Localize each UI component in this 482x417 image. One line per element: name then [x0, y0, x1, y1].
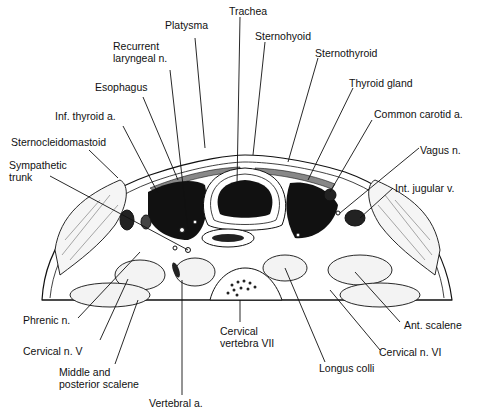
label-sternothyroid: Sternothyroid [315, 47, 377, 59]
label-vagus: Vagus n. [420, 144, 461, 156]
label-cervical-v: Cervical n. V [23, 345, 83, 357]
label-sternocleidomastoid: Sternocleidomastoid [11, 136, 106, 148]
label-cervical-vertebra: Cervical vertebra VII [220, 325, 274, 349]
label-recurrent-laryngeal: Recurrent laryngeal n. [113, 40, 167, 64]
label-cervical-vi: Cervical n. VI [379, 346, 441, 358]
label-middle-posterior-scalene: Middle and posterior scalene [59, 366, 139, 390]
label-phrenic: Phrenic n. [23, 314, 70, 326]
label-sympathetic-trunk: Sympathetic trunk [9, 159, 67, 183]
label-ant-scalene: Ant. scalene [404, 319, 462, 331]
label-platysma: Platysma [165, 19, 208, 31]
label-sternohyoid: Sternohyoid [255, 30, 311, 42]
label-int-jugular: Int. jugular v. [395, 182, 454, 194]
label-vertebral-artery: Vertebral a. [149, 397, 203, 409]
label-longus-colli: Longus colli [319, 362, 374, 374]
label-trachea: Trachea [229, 5, 267, 17]
label-esophagus: Esophagus [95, 81, 148, 93]
label-common-carotid: Common carotid a. [374, 108, 463, 120]
label-inf-thyroid: Inf. thyroid a. [55, 110, 116, 122]
label-thyroid-gland: Thyroid gland [349, 77, 413, 89]
neck-cross-section-diagram: Trachea Platysma Sternohyoid Recurrent l… [0, 0, 482, 417]
